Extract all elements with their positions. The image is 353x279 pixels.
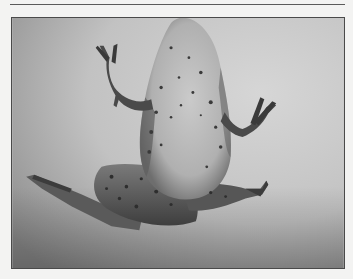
horizontal-rule (10, 4, 345, 5)
scanned-page (0, 0, 353, 279)
frog-photo-illustration (12, 18, 344, 268)
figure-photo (11, 17, 345, 269)
